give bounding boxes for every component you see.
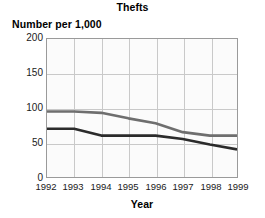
y-tick-label: 200 bbox=[1, 33, 43, 43]
x-tick-label: 1994 bbox=[86, 181, 116, 193]
x-axis-tick-labels: 19921993199419951996199719981999 bbox=[46, 181, 238, 195]
x-tick-label: 1995 bbox=[113, 181, 143, 193]
x-tick-label: 1993 bbox=[58, 181, 88, 193]
x-tick-label: 1999 bbox=[223, 181, 253, 193]
chart-title: Thefts bbox=[0, 1, 265, 13]
series-line-series-dark bbox=[47, 129, 237, 150]
x-axis-label: Year bbox=[46, 198, 238, 210]
x-tick-label: 1996 bbox=[141, 181, 171, 193]
y-axis-label: Number per 1,000 bbox=[12, 18, 102, 30]
x-tick-label: 1998 bbox=[196, 181, 226, 193]
x-tick-label: 1997 bbox=[168, 181, 198, 193]
plot-area bbox=[46, 38, 238, 178]
x-tick-label: 1992 bbox=[31, 181, 61, 193]
thefts-line-chart: Thefts Number per 1,000 050100150200 199… bbox=[0, 0, 265, 218]
y-axis-tick-labels: 050100150200 bbox=[0, 38, 43, 178]
y-tick-label: 50 bbox=[1, 138, 43, 148]
series-line-series-gray bbox=[47, 111, 237, 135]
series-layer bbox=[47, 39, 237, 177]
y-tick-label: 100 bbox=[1, 103, 43, 113]
y-tick-label: 150 bbox=[1, 68, 43, 78]
